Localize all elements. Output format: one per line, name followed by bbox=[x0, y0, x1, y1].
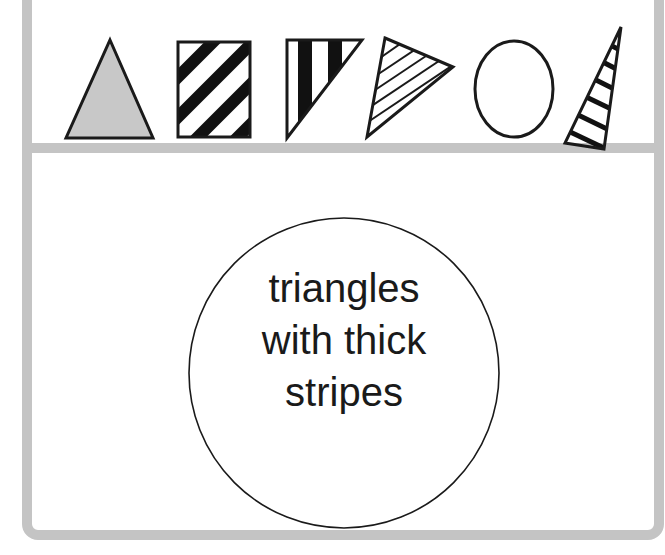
narrow-striped-triangle-shape[interactable] bbox=[562, 27, 630, 158]
vertical-striped-triangle-shape[interactable] bbox=[287, 40, 362, 140]
rule-label: triangles with thick stripes bbox=[189, 262, 499, 418]
gray-triangle-shape[interactable] bbox=[66, 40, 153, 138]
plain-circle-shape[interactable] bbox=[475, 41, 553, 137]
rule-line-3: stripes bbox=[189, 366, 499, 418]
rule-line-1: triangles bbox=[189, 262, 499, 314]
rule-line-2: with thick bbox=[189, 314, 499, 366]
striped-square-shape[interactable] bbox=[160, 15, 295, 160]
hatched-triangle-shape[interactable] bbox=[350, 30, 470, 150]
